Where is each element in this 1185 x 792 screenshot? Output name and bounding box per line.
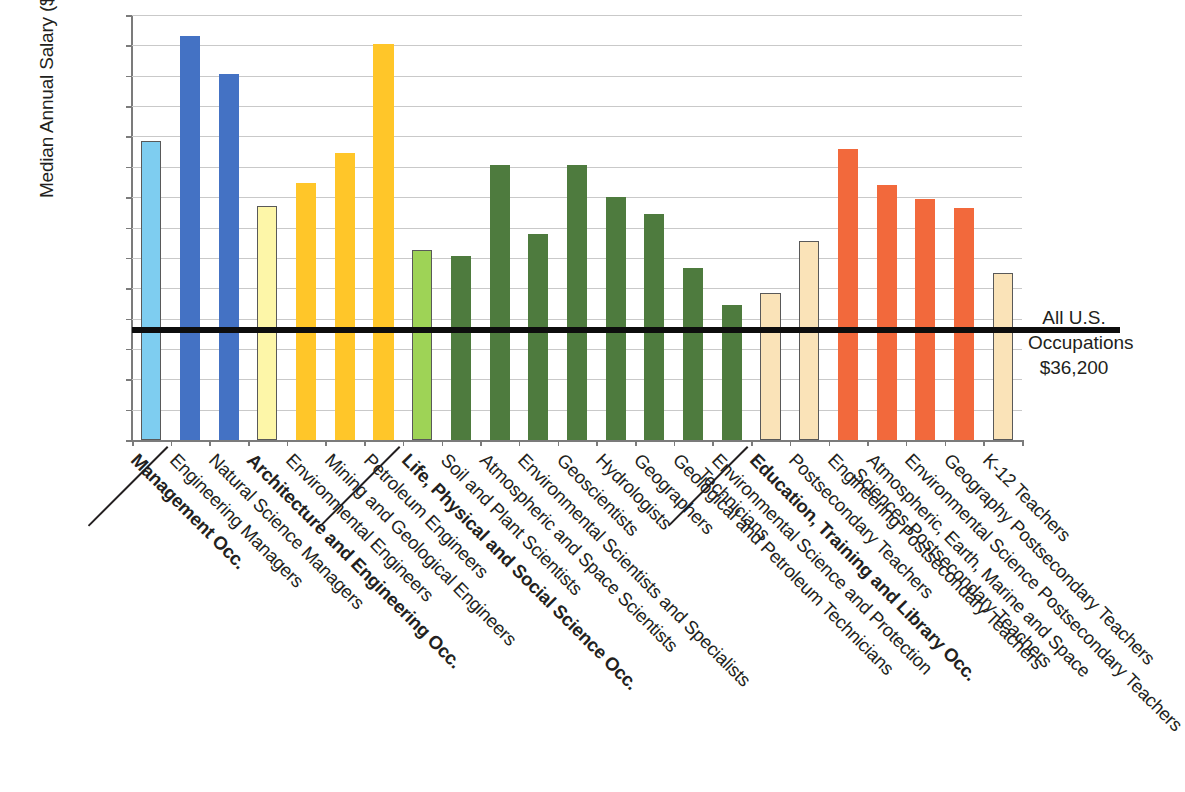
x-tick-mark xyxy=(945,440,947,446)
x-axis-label: Mining and Geological Engineers xyxy=(321,450,520,649)
x-tick-mark xyxy=(674,440,676,446)
gridline xyxy=(132,106,1022,107)
bar[interactable] xyxy=(760,293,780,440)
bar[interactable] xyxy=(683,268,703,440)
plot-area: $140,000$130,000$120,000$110,000$100,000… xyxy=(132,15,1022,440)
y-tick-mark xyxy=(126,167,132,169)
bar[interactable] xyxy=(490,165,510,440)
bar[interactable] xyxy=(606,197,626,440)
y-tick-mark xyxy=(126,258,132,260)
x-axis-label: Hydrologists xyxy=(592,450,675,533)
bar[interactable] xyxy=(180,36,200,440)
bar[interactable] xyxy=(528,234,548,440)
reference-line xyxy=(132,327,1120,333)
group-separator xyxy=(320,446,400,526)
x-tick-mark xyxy=(596,440,598,446)
x-tick-mark xyxy=(906,440,908,446)
x-tick-mark xyxy=(442,440,444,446)
y-tick-mark xyxy=(126,349,132,351)
x-axis-label: Engineering Postsecondary Teachers xyxy=(824,450,1047,673)
y-tick-mark xyxy=(126,410,132,412)
x-tick-mark xyxy=(983,440,985,446)
bar[interactable] xyxy=(141,141,161,440)
gridline xyxy=(132,76,1022,77)
y-tick-mark xyxy=(126,379,132,381)
x-tick-mark xyxy=(558,440,560,446)
bar[interactable] xyxy=(296,183,316,440)
reference-label-line3: $36,200 xyxy=(1028,355,1120,380)
x-axis-label: Petroleum Engineers xyxy=(360,450,492,582)
bar[interactable] xyxy=(799,241,819,440)
x-axis-label: Engineering Managers xyxy=(167,450,308,591)
gridline xyxy=(132,15,1022,16)
x-axis-label: K-12 Teachers xyxy=(979,450,1074,545)
x-axis-label: Soil and Plant Scientists xyxy=(437,450,585,598)
y-tick-mark xyxy=(126,136,132,138)
y-tick-mark xyxy=(126,197,132,199)
y-tick-mark xyxy=(126,288,132,290)
x-axis-label: Geography Postsecondary Teachers xyxy=(941,450,1159,668)
gridline xyxy=(132,136,1022,137)
x-tick-mark xyxy=(829,440,831,446)
x-axis-label: Natural Science Managers xyxy=(205,450,368,613)
bar[interactable] xyxy=(219,74,239,440)
bar[interactable] xyxy=(257,206,277,440)
bar[interactable] xyxy=(838,149,858,440)
x-tick-mark xyxy=(790,440,792,446)
y-axis-title: Median Annual Salary ($USD) xyxy=(36,0,64,264)
x-tick-mark xyxy=(171,440,173,446)
gridline xyxy=(132,440,1022,442)
bar[interactable] xyxy=(954,208,974,440)
y-tick-mark xyxy=(126,319,132,321)
y-tick-mark xyxy=(126,45,132,47)
reference-label-line2: Occupations xyxy=(1028,330,1120,355)
y-tick-mark xyxy=(126,76,132,78)
x-axis-label: Geological and Petroleum Technicians xyxy=(670,450,898,678)
bar[interactable] xyxy=(335,153,355,440)
x-axis-label: Architecture and Engineering Occ. xyxy=(244,450,466,672)
x-tick-mark xyxy=(248,440,250,446)
x-tick-mark xyxy=(132,440,134,446)
y-tick-mark xyxy=(126,15,132,17)
x-tick-mark xyxy=(209,440,211,446)
x-tick-mark xyxy=(325,440,327,446)
x-tick-mark xyxy=(519,440,521,446)
x-tick-mark xyxy=(635,440,637,446)
x-tick-mark xyxy=(712,440,714,446)
x-axis-label: Environmental Science Postsecondary Teac… xyxy=(902,450,1185,735)
bar[interactable] xyxy=(373,44,393,440)
x-axis-label: Geoscientists xyxy=(554,450,643,539)
x-axis-label: Geographers xyxy=(631,450,718,537)
gridline xyxy=(132,45,1022,46)
x-tick-mark xyxy=(480,440,482,446)
group-separator xyxy=(87,446,167,526)
x-axis-label: Environmental Engineers xyxy=(283,450,438,605)
x-axis-label: Education, Training and Library Occ. xyxy=(747,450,981,684)
reference-line-annotation: All U.S. Occupations $36,200 xyxy=(1028,305,1120,380)
x-axis-label: Management Occ. xyxy=(128,450,250,572)
x-tick-mark xyxy=(867,440,869,446)
bar[interactable] xyxy=(993,273,1013,440)
bar[interactable] xyxy=(877,185,897,440)
x-tick-mark xyxy=(751,440,753,446)
x-axis-label: Atmospheric, Earth, Marine and Space Sci… xyxy=(848,450,1110,712)
x-axis-label: Life, Physical and Social Science Occ. xyxy=(399,450,642,693)
x-axis-label: Environmental Science and Protection Tec… xyxy=(693,450,955,712)
x-tick-mark xyxy=(1022,440,1024,446)
x-tick-mark xyxy=(287,440,289,446)
x-tick-mark xyxy=(364,440,366,446)
y-tick-mark xyxy=(126,106,132,108)
y-tick-mark xyxy=(126,228,132,230)
bar[interactable] xyxy=(451,256,471,440)
bar[interactable] xyxy=(722,305,742,440)
bar[interactable] xyxy=(915,199,935,440)
x-axis-label: Postsecondary Teachers xyxy=(786,450,938,602)
bar[interactable] xyxy=(567,165,587,440)
group-separator xyxy=(668,446,748,526)
bar[interactable] xyxy=(412,250,432,440)
x-axis-label: Atmospheric and Space Scientists xyxy=(476,450,681,655)
x-axis-label: Environmental Scientists and Specialists xyxy=(515,450,755,690)
x-tick-mark xyxy=(403,440,405,446)
